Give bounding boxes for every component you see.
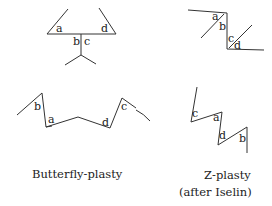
label-b: b xyxy=(239,132,246,145)
caption-butterfly: Butterfly-plasty xyxy=(32,167,123,181)
label-c: c xyxy=(84,35,90,48)
surgical-diagram: a b c d a b c d b a d c Butterfly-plasty xyxy=(0,0,272,206)
label-d: d xyxy=(102,116,109,129)
label-b: b xyxy=(219,20,226,33)
caption-z-line1: Z-plasty xyxy=(204,168,251,182)
label-a: a xyxy=(56,22,63,35)
label-a: a xyxy=(212,10,219,23)
z-bottom-figure: c a d b Z-plasty (after Iselin) xyxy=(136,87,252,199)
label-c: c xyxy=(192,107,198,120)
label-d: d xyxy=(234,39,241,52)
caption-z-line2: (after Iselin) xyxy=(179,185,252,199)
label-c: c xyxy=(121,100,127,113)
z-top-figure: a b c d xyxy=(188,10,264,52)
diagram-canvas: a b c d a b c d b a d c Butterfly-plasty xyxy=(0,0,272,206)
label-a: a xyxy=(48,113,55,126)
label-a: a xyxy=(213,111,220,124)
label-b: b xyxy=(34,100,41,113)
label-d: d xyxy=(219,129,226,142)
label-b: b xyxy=(73,35,80,48)
butterfly-top-figure: a b c d xyxy=(47,8,116,65)
butterfly-bottom-figure: b a d c Butterfly-plasty xyxy=(17,93,136,181)
label-d: d xyxy=(101,22,108,35)
